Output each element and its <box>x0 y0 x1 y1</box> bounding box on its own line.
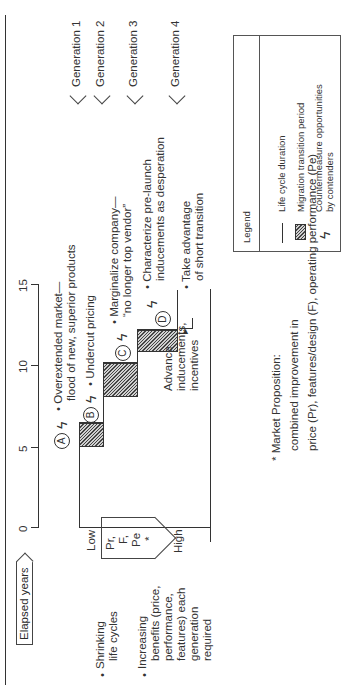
tick-10 <box>31 365 38 366</box>
marker-c: C <box>115 345 131 361</box>
legend-lightning-icon: ϟ <box>318 232 332 239</box>
legend-item-1-label: Life cycle duration <box>276 135 287 212</box>
tick-15 <box>31 284 39 285</box>
generation-4-riser <box>137 329 178 330</box>
tick-label-15: 15 <box>17 279 30 292</box>
side-note-2-line6: required <box>201 619 214 661</box>
marker-d: D <box>155 311 171 327</box>
lightning-icon-c: ϟ <box>115 334 129 341</box>
generation-2-line <box>103 397 104 423</box>
tick-label-5: 5 <box>17 446 30 452</box>
proposition-asterisk: * <box>143 537 156 541</box>
take-advantage-line1: • Take advantage <box>180 201 193 289</box>
generation-3-label: Generation 3 <box>127 21 139 88</box>
transition-bar-a <box>79 423 104 447</box>
page-border-line <box>5 15 6 685</box>
generation-4-label: Generation 4 <box>169 21 181 88</box>
footnote-line3: price (Pr), features/design (F), operati… <box>306 154 319 451</box>
generation-3-riser <box>103 362 138 363</box>
generation-1-chevron-icon <box>70 88 87 105</box>
lightning-icon-b: ϟ <box>84 396 98 403</box>
side-note-1-bullet: • <box>96 673 109 677</box>
footnote-line1: * Market Proposition: <box>270 354 283 461</box>
proposition-f: F, <box>117 535 130 544</box>
legend-line-icon <box>282 223 283 243</box>
side-note-1-line2: life cycles <box>107 611 120 661</box>
legend-divider <box>259 36 260 251</box>
inducement-line1: Advance <box>162 346 175 391</box>
rotated-figure: Elapsed years 0 5 10 15 A ϟ • Overextend… <box>0 0 346 691</box>
generation-1-label: Generation 1 <box>70 21 82 88</box>
legend-title: Legend <box>241 211 252 243</box>
legend-hatched-box-icon <box>295 224 306 240</box>
side-note-2-line5: generation <box>188 607 201 661</box>
proposition-pr: Pr, <box>104 536 117 550</box>
countermeasure-c-line2: “no longer top vendor” <box>121 204 134 317</box>
elapsed-years-label: Elapsed years <box>16 561 33 645</box>
generation-2-chevron-icon <box>94 88 111 105</box>
chart-baseline <box>210 289 211 542</box>
marker-a: A <box>54 433 70 449</box>
countermeasure-d-line2: inducements as desperation <box>154 137 167 281</box>
generation-4-chevron-icon <box>169 88 186 105</box>
tick-0 <box>31 527 38 528</box>
generation-1-line <box>79 447 80 528</box>
legend-box: Legend Life cycle duration Migration tra… <box>233 35 341 252</box>
inducement-arrowhead-icon: ▲ <box>181 325 190 338</box>
side-note-2-line2: benefits (price, <box>149 586 162 661</box>
countermeasure-b-line1: • Undercut pricing <box>84 295 97 386</box>
side-note-2-line4: features) each <box>175 587 188 661</box>
side-note-2-line3: performance, <box>162 593 175 661</box>
side-note-2-line1: Increasing <box>136 616 149 669</box>
time-axis-line <box>38 285 39 528</box>
countermeasure-d-line1: • Characterize pre-launch <box>141 159 154 289</box>
countermeasure-a-line2: flood of new, superior products <box>65 244 78 401</box>
proposition-pe: Pe <box>130 533 143 547</box>
elapsed-years-text: Elapsed years <box>18 567 30 640</box>
inducement-line3: incentives <box>188 340 201 391</box>
footnote-line2: combined improvement in <box>288 319 301 451</box>
lightning-icon-a: ϟ <box>55 422 69 429</box>
generation-3-chevron-icon <box>127 88 144 105</box>
countermeasure-c-line1: • Marginalize company— <box>108 197 121 324</box>
proposition-high-label: High <box>172 529 185 553</box>
countermeasure-a-line1: • Overextended market— <box>52 282 65 411</box>
generation-2-label: Generation 2 <box>94 21 106 88</box>
transition-bar-b <box>103 363 138 397</box>
tick-5 <box>31 447 38 448</box>
take-advantage-line2: of short transition <box>193 193 206 281</box>
side-note-1-line1: Shrinking <box>94 621 107 669</box>
tick-label-10: 10 <box>17 360 30 373</box>
legend-item-3-line2: by contenders <box>324 152 335 212</box>
lightning-icon-d: ϟ <box>145 301 159 308</box>
legend-item-2-label: Migration transition period <box>295 103 306 212</box>
side-note-2-bullet: • <box>138 673 151 677</box>
tick-label-0: 0 <box>17 526 30 532</box>
proposition-low-label: Low <box>85 530 98 551</box>
marker-b: B <box>83 407 99 423</box>
